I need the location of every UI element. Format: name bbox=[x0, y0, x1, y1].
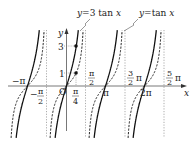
label-tanx: y=tan x bbox=[138, 8, 174, 18]
x-tick-three-half-pi: π bbox=[136, 73, 142, 83]
x-tick-quarter-pi-num: π bbox=[73, 87, 78, 96]
x-tick-neg-half-pi-den: 2 bbox=[38, 97, 43, 106]
x-axis-label: x bbox=[184, 88, 189, 98]
x-tick-half-pi-num: π bbox=[89, 69, 94, 78]
point-3tan-pi4 bbox=[74, 44, 78, 48]
x-tick-pi: π bbox=[103, 88, 109, 98]
x-tick-five-half-pi: π bbox=[175, 73, 181, 83]
y-tick-1: 1 bbox=[59, 69, 65, 79]
x-tick-five-half-den: 2 bbox=[167, 78, 172, 87]
curve-3tanx-branch bbox=[94, 30, 117, 138]
leader-tanx bbox=[124, 19, 138, 31]
point-tan-pi4 bbox=[74, 71, 78, 75]
x-tick-three-half-num: 3 bbox=[128, 69, 133, 78]
tangent-graph: y=3 tan x y=tan x y x O 3 1 −π − π 2 π 4… bbox=[0, 0, 192, 142]
label-3tanx: y=3 tan x bbox=[76, 8, 121, 18]
x-tick-quarter-pi-den: 4 bbox=[73, 97, 78, 106]
origin-label: O bbox=[59, 87, 66, 97]
guide-lines bbox=[64, 46, 76, 86]
x-tick-three-half-den: 2 bbox=[128, 78, 133, 87]
x-tick-neg-half-pi-num: π bbox=[38, 87, 43, 96]
axes bbox=[8, 30, 184, 131]
x-tick-neg-half-pi-sign: − bbox=[30, 89, 38, 99]
curves bbox=[11, 30, 161, 138]
x-tick-half-pi-den: 2 bbox=[89, 78, 94, 87]
x-tick-neg-pi: −π bbox=[12, 76, 26, 86]
y-axis-arrow-icon bbox=[65, 28, 69, 34]
curve-3tanx-branch bbox=[133, 30, 156, 138]
y-tick-3: 3 bbox=[58, 42, 64, 52]
x-tick-two-pi: 2π bbox=[140, 88, 152, 98]
x-tick-five-half-num: 5 bbox=[167, 69, 172, 78]
leader-3tanx bbox=[80, 19, 90, 31]
y-axis-label: y bbox=[57, 28, 64, 38]
